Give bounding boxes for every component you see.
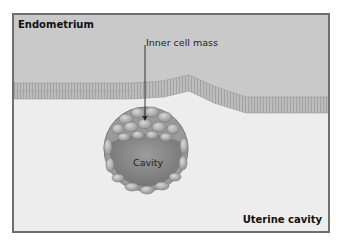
diagram-frame: Endometrium Inner cell mass Cavity Uteri… — [12, 13, 330, 233]
endometrium-label: Endometrium — [18, 19, 94, 30]
uterine-cavity-label: Uterine cavity — [243, 214, 322, 225]
blastocyst — [104, 107, 188, 194]
cavity-label: Cavity — [133, 157, 163, 168]
inner-cell-mass-label: Inner cell mass — [146, 37, 218, 48]
